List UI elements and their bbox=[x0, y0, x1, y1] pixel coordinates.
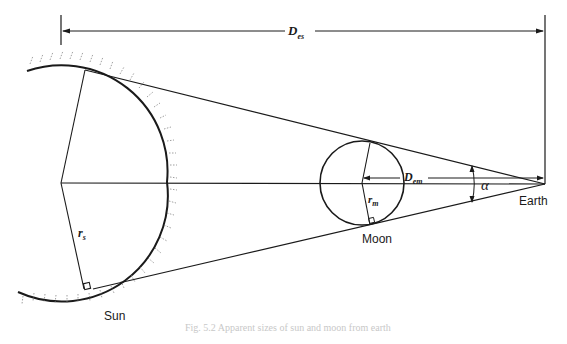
tangent-lines bbox=[85, 70, 545, 289]
center-axis bbox=[61, 183, 545, 184]
moon-shape bbox=[320, 141, 404, 225]
moon-label: Moon bbox=[362, 232, 392, 246]
earth-label: Earth bbox=[519, 194, 548, 208]
d-em-dimension bbox=[363, 176, 544, 181]
figure-caption: Fig. 5.2 Apparent sizes of sun and moon … bbox=[185, 322, 391, 333]
alpha-label: α bbox=[481, 177, 489, 194]
sun-shape bbox=[18, 51, 177, 304]
sun-label: Sun bbox=[104, 309, 125, 323]
r-s-label: rs bbox=[78, 226, 86, 242]
sun-moon-earth-diagram bbox=[0, 0, 567, 344]
sun-radius bbox=[61, 70, 91, 290]
d-em-label: Dem bbox=[404, 170, 422, 186]
d-es-label: Des bbox=[288, 23, 304, 41]
r-m-label: rm bbox=[368, 193, 379, 208]
